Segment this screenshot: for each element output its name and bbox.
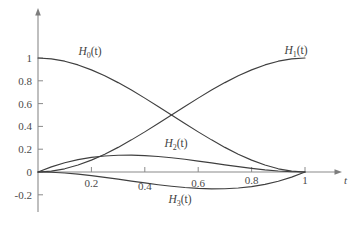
- x-axis-arrow-icon: [335, 169, 343, 175]
- curve-h2: [38, 155, 305, 172]
- y-tick-label-1: 1: [27, 52, 33, 64]
- x-tick-label-0-8: 0.8: [245, 174, 259, 186]
- y-axis-arrow-icon: [35, 8, 41, 16]
- y-tick-label-0-2: 0.2: [18, 143, 32, 155]
- y-tick-label-0-4: 0.4: [18, 120, 32, 132]
- y-tick-label-neg-0-2: -0.2: [15, 189, 32, 201]
- y-tick-label-0-8: 0.8: [18, 75, 32, 87]
- label-h2: H2(t): [163, 137, 187, 152]
- label-h3: H3(t): [167, 193, 191, 208]
- hermite-basis-functions-figure: 1 0.8 0.6 0.4 0.2 0 -0.2 0.2 0.4 0.6 0.8…: [0, 0, 356, 228]
- curve-h3: [38, 172, 305, 189]
- label-h3-tail: (t): [181, 193, 192, 206]
- y-tick-label-0-6: 0.6: [18, 98, 32, 110]
- plot-area: 1 0.8 0.6 0.4 0.2 0 -0.2 0.2 0.4 0.6 0.8…: [0, 0, 356, 228]
- label-h1-tail: (t): [297, 44, 308, 57]
- curves-group: [38, 58, 305, 189]
- label-h1: H1(t): [283, 44, 307, 59]
- x-tick-label-1: 1: [302, 174, 308, 186]
- curve-h1: [38, 58, 305, 172]
- axes-group: [35, 8, 342, 212]
- y-ticks-group: [38, 58, 43, 195]
- x-tick-labels-group: 0.2 0.4 0.6 0.8 1: [85, 174, 308, 192]
- x-tick-label-0-6: 0.6: [191, 177, 205, 189]
- x-tick-label-0-2: 0.2: [85, 177, 99, 189]
- label-h2-tail: (t): [177, 137, 188, 150]
- x-axis-name: t: [344, 174, 348, 186]
- y-tick-labels-group: 1 0.8 0.6 0.4 0.2 0 -0.2: [15, 52, 33, 201]
- y-tick-label-0: 0: [27, 166, 33, 178]
- label-h0-tail: (t): [91, 45, 102, 58]
- label-h0: H0(t): [77, 45, 101, 60]
